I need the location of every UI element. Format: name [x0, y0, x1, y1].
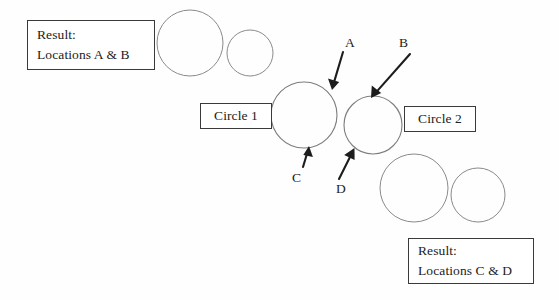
main-circle-group	[271, 82, 402, 154]
arrow-label-b: B	[399, 36, 408, 50]
circle-1-shape[interactable]	[271, 82, 337, 148]
arrow-a-head	[328, 79, 339, 90]
arrow-d-shaft	[339, 156, 351, 179]
circle-2-label: Circle 2	[418, 109, 462, 129]
result-ab-box[interactable]: Result: Locations A & B	[27, 20, 155, 70]
arrow-d	[339, 148, 355, 179]
arrow-a-shaft	[334, 52, 343, 82]
result-cd-circle-small	[451, 168, 505, 222]
result-cd-circle-large	[380, 154, 448, 222]
result-ab-title: Result:	[28, 25, 154, 45]
result-ab-circle-large	[157, 10, 223, 76]
circle-1-label: Circle 1	[214, 106, 258, 126]
arrow-b	[371, 54, 410, 98]
arrow-c	[303, 146, 313, 167]
arrow-b-shaft	[378, 54, 410, 90]
result-cd-box[interactable]: Result: Locations C & D	[408, 238, 534, 284]
result-cd-title: Result:	[409, 241, 533, 261]
result-cd-circle-group	[380, 154, 505, 222]
diagram-root: Result: Locations A & B Circle 1 Circle …	[0, 0, 559, 300]
arrow-label-a: A	[345, 36, 355, 50]
result-cd-detail: Locations C & D	[409, 261, 533, 281]
circle-1-box[interactable]: Circle 1	[200, 103, 272, 129]
circle-2-box[interactable]: Circle 2	[404, 106, 476, 132]
result-ab-detail: Locations A & B	[28, 45, 154, 65]
arrow-a	[328, 52, 343, 90]
arrow-label-d: D	[336, 182, 346, 196]
circle-2-shape[interactable]	[344, 96, 402, 154]
arrow-label-c: C	[292, 171, 301, 185]
result-ab-circle-small	[227, 30, 273, 76]
result-ab-circle-group	[157, 10, 273, 76]
